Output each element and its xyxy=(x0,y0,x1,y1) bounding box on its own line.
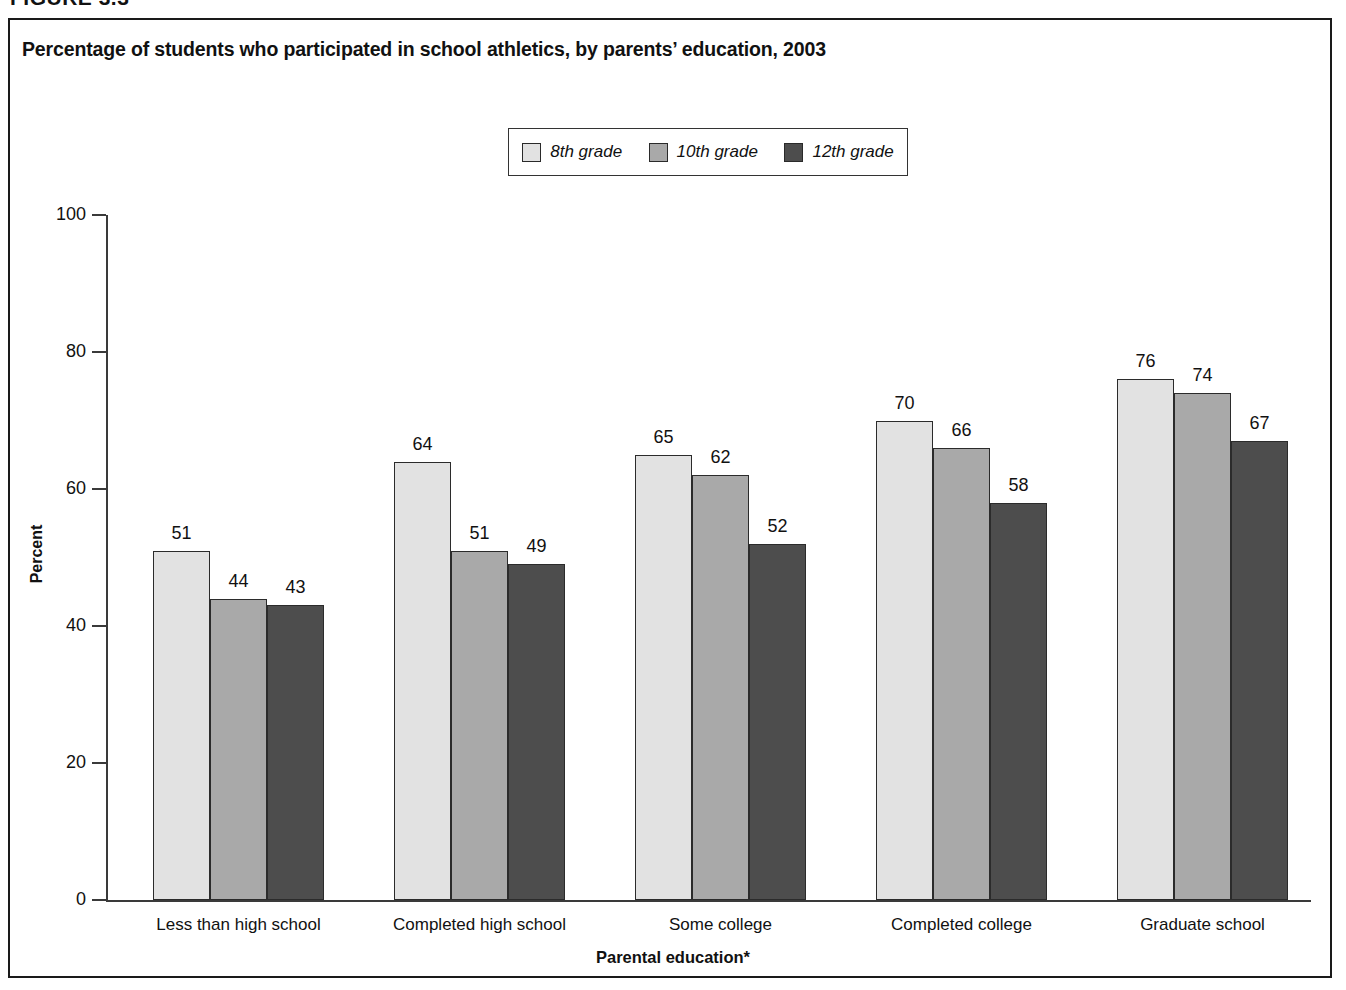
legend-item-10th-grade[interactable]: 10th grade xyxy=(649,142,758,162)
chart-legend: 8th grade 10th grade 12th grade xyxy=(508,128,908,176)
legend-swatch-8th-grade xyxy=(522,143,541,162)
legend-item-8th-grade[interactable]: 8th grade xyxy=(522,142,622,162)
legend-label-12th-grade: 12th grade xyxy=(812,142,893,162)
figure-number-label: FIGURE 3.3 xyxy=(10,0,129,12)
legend-swatch-12th-grade xyxy=(784,143,803,162)
legend-item-12th-grade[interactable]: 12th grade xyxy=(784,142,893,162)
legend-swatch-10th-grade xyxy=(649,143,668,162)
legend-label-10th-grade: 10th grade xyxy=(677,142,758,162)
legend-label-8th-grade: 8th grade xyxy=(550,142,622,162)
chart-title: Percentage of students who participated … xyxy=(22,38,826,61)
